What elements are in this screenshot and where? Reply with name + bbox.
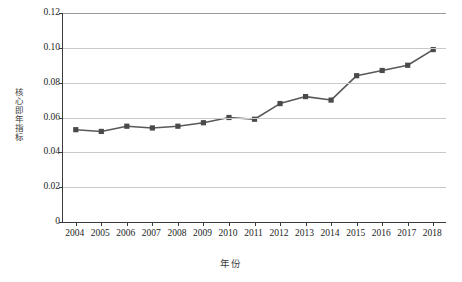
y-tick-label: 0.12: [18, 8, 60, 18]
y-tick-mark: [59, 187, 63, 188]
data-point-marker: [354, 73, 359, 78]
x-tick-mark: [382, 222, 383, 226]
x-axis-title: 年份: [0, 256, 462, 270]
x-tick-label: 2013: [295, 228, 314, 238]
x-tick-label: 2014: [321, 228, 340, 238]
x-tick-label: 2005: [91, 228, 110, 238]
x-tick-label: 2009: [193, 228, 212, 238]
y-tick-label: 0.08: [18, 78, 60, 88]
x-tick-mark: [255, 222, 256, 226]
x-tick-label: 2011: [244, 228, 263, 238]
data-point-marker: [329, 97, 334, 102]
line-chart: 核心即年指标 00.020.040.060.080.100.12 2004200…: [0, 0, 462, 282]
y-tick-label: 0.04: [18, 147, 60, 157]
x-tick-label: 2006: [116, 228, 135, 238]
x-tick-mark: [127, 222, 128, 226]
y-tick-mark: [59, 222, 63, 223]
x-tick-label: 2010: [218, 228, 237, 238]
gridline: [63, 187, 446, 188]
plot-area: [62, 13, 446, 223]
y-tick-label: 0.10: [18, 43, 60, 53]
x-tick-mark: [101, 222, 102, 226]
x-tick-mark: [357, 222, 358, 226]
y-tick-mark: [59, 118, 63, 119]
x-tick-label: 2012: [270, 228, 289, 238]
x-tick-mark: [152, 222, 153, 226]
x-tick-label: 2004: [65, 228, 84, 238]
x-tick-mark: [229, 222, 230, 226]
data-point-marker: [150, 125, 155, 130]
x-tick-mark: [306, 222, 307, 226]
data-point-marker: [380, 68, 385, 73]
x-tick-label: 2007: [142, 228, 161, 238]
data-point-marker: [99, 129, 104, 134]
x-tick-label: 2018: [423, 228, 442, 238]
data-point-marker: [405, 63, 410, 68]
y-tick-mark: [59, 48, 63, 49]
x-tick-mark: [408, 222, 409, 226]
gridline: [63, 48, 446, 49]
x-tick-mark: [433, 222, 434, 226]
y-tick-mark: [59, 152, 63, 153]
data-point-marker: [277, 101, 282, 106]
x-tick-label: 2016: [372, 228, 391, 238]
x-tick-mark: [203, 222, 204, 226]
x-tick-mark: [76, 222, 77, 226]
y-tick-label: 0.02: [18, 182, 60, 192]
gridline: [63, 152, 446, 153]
y-tick-label: 0: [18, 217, 60, 227]
y-tick-mark: [59, 13, 63, 14]
x-axis-tick-labels: 2004200520062007200820092010201120122013…: [62, 228, 445, 244]
gridline: [63, 83, 446, 84]
data-point-marker: [303, 94, 308, 99]
data-point-marker: [175, 124, 180, 129]
data-point-marker: [124, 124, 129, 129]
x-tick-mark: [280, 222, 281, 226]
data-point-marker: [201, 120, 206, 125]
gridline: [63, 118, 446, 119]
x-tick-mark: [178, 222, 179, 226]
x-tick-mark: [331, 222, 332, 226]
y-tick-mark: [59, 83, 63, 84]
x-tick-label: 2017: [397, 228, 416, 238]
data-point-marker: [73, 127, 78, 132]
x-tick-label: 2008: [167, 228, 186, 238]
y-tick-label: 0.06: [18, 113, 60, 123]
y-axis-tick-labels: 00.020.040.060.080.100.12: [14, 0, 60, 282]
x-tick-label: 2015: [346, 228, 365, 238]
